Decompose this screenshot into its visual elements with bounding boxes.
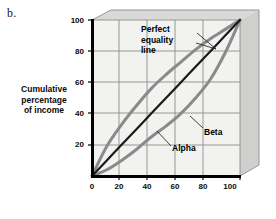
annotation-beta: Beta: [204, 127, 222, 138]
plot-bevel-right: [240, 10, 259, 176]
lorenz-curve-plot: [0, 0, 276, 219]
annotation-perfect-equality-line: Perfect equality line: [141, 24, 197, 56]
figure-panel: b. Cumulative percentage of income 100 8…: [0, 0, 276, 219]
annotation-alpha: Alpha: [172, 143, 196, 154]
plot-bevel-top: [92, 10, 259, 20]
annotation-equality-line-1: Perfect: [141, 24, 197, 35]
annotation-equality-line-2: equality: [141, 35, 197, 46]
annotation-equality-line-3: line: [141, 45, 197, 56]
